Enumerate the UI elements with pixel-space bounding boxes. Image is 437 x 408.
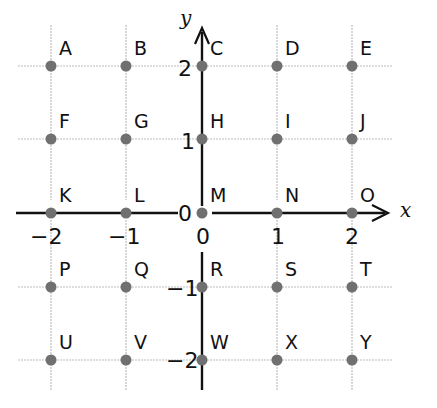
point-j	[347, 134, 358, 145]
point-label-n: N	[285, 186, 299, 205]
point-label-f: F	[59, 112, 70, 131]
x-tick-2: 2	[345, 226, 359, 248]
point-c	[197, 61, 208, 72]
point-n	[272, 208, 283, 219]
point-label-q: Q	[134, 260, 149, 279]
point-label-k: K	[59, 186, 71, 205]
point-label-x: X	[285, 333, 298, 352]
x-tick-neg1: −1	[108, 226, 140, 248]
point-h	[197, 134, 208, 145]
point-label-y: Y	[360, 333, 372, 352]
y-tick-0: 0	[178, 203, 192, 225]
point-label-i: I	[285, 112, 291, 131]
point-u	[46, 355, 57, 366]
y-tick-2: 2	[178, 58, 192, 80]
x-tick-neg2: −2	[30, 226, 62, 248]
x-tick-0: 0	[196, 226, 210, 248]
point-i	[272, 134, 283, 145]
point-label-g: G	[134, 112, 149, 131]
point-t	[347, 282, 358, 293]
point-label-r: R	[210, 260, 223, 279]
y-axis-label: y	[180, 8, 191, 28]
point-y	[347, 355, 358, 366]
point-m	[197, 208, 208, 219]
point-b	[121, 61, 132, 72]
point-label-o: O	[360, 186, 375, 205]
point-label-b: B	[134, 39, 147, 58]
point-label-e: E	[360, 39, 372, 58]
coordinate-grid: x y −2 −1 0 1 2 2 1 0 −1 −2 ABCDEFGHIJKL…	[0, 0, 437, 408]
point-label-s: S	[285, 260, 297, 279]
point-label-l: L	[134, 186, 145, 205]
y-tick-1: 1	[181, 131, 195, 153]
point-label-j: J	[360, 112, 366, 131]
point-x	[272, 355, 283, 366]
point-d	[272, 61, 283, 72]
point-label-t: T	[360, 260, 372, 279]
x-tick-1: 1	[271, 226, 285, 248]
point-label-a: A	[59, 39, 72, 58]
point-v	[121, 355, 132, 366]
y-tick-neg2: −2	[166, 350, 198, 372]
point-label-u: U	[59, 333, 73, 352]
point-label-h: H	[210, 112, 224, 131]
point-label-d: D	[285, 39, 300, 58]
point-q	[121, 282, 132, 293]
point-s	[272, 282, 283, 293]
point-a	[46, 61, 57, 72]
point-label-c: C	[210, 39, 223, 58]
point-p	[46, 282, 57, 293]
point-k	[46, 208, 57, 219]
point-e	[347, 61, 358, 72]
point-l	[121, 208, 132, 219]
point-g	[121, 134, 132, 145]
y-tick-neg1: −1	[166, 278, 198, 300]
point-label-m: M	[210, 186, 226, 205]
x-axis-label: x	[400, 200, 411, 220]
point-label-p: P	[59, 260, 70, 279]
grid-lines	[18, 25, 392, 390]
point-label-w: W	[210, 333, 229, 352]
point-f	[46, 134, 57, 145]
point-o	[347, 208, 358, 219]
point-label-v: V	[134, 333, 147, 352]
